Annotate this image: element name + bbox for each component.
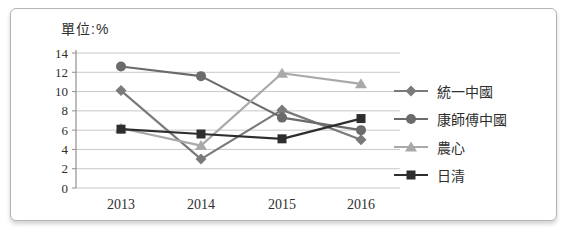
triangle-glyph bbox=[391, 139, 431, 155]
data-point-square bbox=[197, 130, 206, 139]
y-tick-label: 6 bbox=[62, 123, 69, 138]
x-tick-label: 2013 bbox=[107, 197, 135, 212]
legend-item-nongshim: 農心 bbox=[391, 137, 507, 156]
legend-item-tongyi-china: 統一中國 bbox=[391, 81, 507, 100]
y-tick-label: 10 bbox=[55, 84, 68, 99]
y-tick-label: 8 bbox=[62, 103, 69, 118]
legend-label: 統一中國 bbox=[437, 81, 493, 101]
circle-marker-shape bbox=[406, 114, 416, 124]
square-glyph bbox=[391, 167, 431, 183]
y-tick-label: 12 bbox=[55, 65, 68, 80]
data-point-circle bbox=[356, 125, 366, 135]
y-tick-label: 2 bbox=[62, 161, 69, 176]
x-tick-label: 2016 bbox=[347, 197, 375, 212]
diamond-marker-icon bbox=[391, 83, 431, 99]
square-marker-icon bbox=[391, 167, 431, 183]
legend-label: 康師傅中國 bbox=[437, 109, 507, 129]
diamond-glyph bbox=[391, 83, 431, 99]
legend-label: 日清 bbox=[437, 165, 465, 185]
y-tick-label: 14 bbox=[55, 46, 69, 61]
legend-item-master-kong-china: 康師傅中國 bbox=[391, 109, 507, 128]
data-point-circle bbox=[277, 113, 287, 123]
diamond-marker-shape bbox=[406, 85, 417, 96]
triangle-marker-icon bbox=[391, 139, 431, 155]
legend-item-nissin: 日清 bbox=[391, 165, 507, 184]
y-tick-label: 0 bbox=[62, 181, 69, 196]
data-point-diamond bbox=[356, 134, 367, 145]
circle-glyph bbox=[391, 111, 431, 127]
circle-marker-icon bbox=[391, 111, 431, 127]
y-tick-label: 4 bbox=[62, 142, 69, 157]
figure-card: 單位:% 024681012142013201420152016 統一中國 康師… bbox=[10, 8, 557, 221]
x-tick-label: 2014 bbox=[187, 197, 215, 212]
square-marker-shape bbox=[407, 170, 416, 179]
data-point-circle bbox=[196, 71, 206, 81]
legend: 統一中國 康師傅中國 農心 日清 bbox=[391, 81, 507, 184]
data-point-square bbox=[117, 125, 126, 134]
data-point-square bbox=[357, 114, 366, 123]
x-tick-label: 2015 bbox=[268, 197, 296, 212]
legend-label: 農心 bbox=[437, 137, 465, 157]
data-point-circle bbox=[116, 62, 126, 72]
data-point-square bbox=[278, 134, 287, 143]
